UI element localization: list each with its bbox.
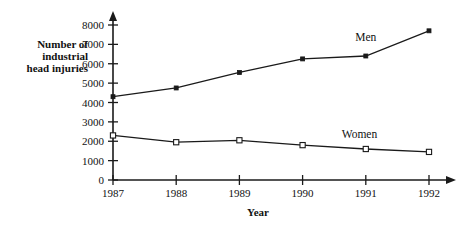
data-point-marker-women — [426, 149, 431, 154]
line-chart-plot: Number of industrial head injuries Year … — [0, 0, 464, 228]
x-axis-title: Year — [247, 206, 269, 218]
data-point-marker-men — [427, 29, 431, 33]
chart-figure: Number of industrial head injuries Year … — [0, 0, 464, 228]
x-tick-label: 1987 — [102, 187, 125, 199]
data-point-marker-men — [301, 57, 305, 61]
data-point-marker-women — [363, 146, 368, 151]
series-labels-layer: MenWomen — [342, 31, 378, 140]
x-tick-label: 1988 — [165, 187, 188, 199]
x-tick-label: 1990 — [292, 187, 315, 199]
x-axis-ticks: 198719881989199019911992 — [102, 175, 440, 199]
y-tick-label: 7000 — [82, 38, 105, 50]
series-label-women: Women — [342, 128, 378, 140]
x-tick-label: 1991 — [355, 187, 377, 199]
data-point-marker-women — [237, 138, 242, 143]
y-axis-title-line-3: head injuries — [27, 62, 89, 74]
data-point-marker-women — [174, 140, 179, 145]
data-point-marker-men — [237, 70, 241, 74]
data-point-marker-men — [111, 95, 115, 99]
y-tick-label: 2000 — [82, 135, 105, 147]
data-point-marker-women — [110, 133, 115, 138]
x-axis-arrowhead-icon — [446, 176, 456, 184]
y-tick-label: 0 — [99, 174, 105, 186]
y-axis-ticks: 010002000300040005000600070008000 — [82, 19, 118, 186]
y-tick-label: 4000 — [82, 97, 105, 109]
y-tick-label: 1000 — [82, 155, 105, 167]
y-tick-label: 6000 — [82, 58, 105, 70]
y-tick-label: 3000 — [82, 116, 105, 128]
data-point-marker-men — [364, 54, 368, 58]
data-point-marker-men — [174, 86, 178, 90]
x-tick-label: 1989 — [228, 187, 251, 199]
axis-lines — [109, 11, 456, 184]
series-line-men — [113, 31, 429, 97]
data-point-marker-women — [300, 143, 305, 148]
data-series-layer — [110, 29, 431, 155]
y-axis-arrowhead-icon — [109, 11, 117, 21]
y-tick-label: 5000 — [82, 77, 105, 89]
y-tick-label: 8000 — [82, 19, 105, 31]
y-axis-title-line-1: Number of — [37, 38, 88, 50]
series-line-women — [113, 135, 429, 151]
x-tick-label: 1992 — [418, 187, 440, 199]
series-label-men: Men — [355, 31, 376, 43]
